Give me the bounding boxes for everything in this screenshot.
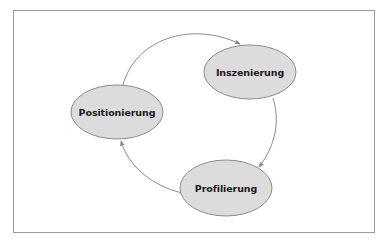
arrow-profilierung-to-positionierung: [121, 141, 182, 193]
node-profilierung-label: Profilierung: [180, 160, 272, 216]
node-inszenierung-label: Inszenierung: [204, 45, 296, 99]
arrow-inszenierung-to-profilierung: [259, 98, 276, 167]
node-positionierung-label: Positionierung: [71, 85, 163, 139]
